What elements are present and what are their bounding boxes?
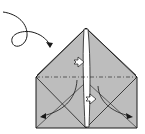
diagram-canvas bbox=[0, 0, 145, 134]
turn-over-arrow-icon bbox=[3, 12, 53, 48]
origami-diagram bbox=[0, 0, 145, 134]
